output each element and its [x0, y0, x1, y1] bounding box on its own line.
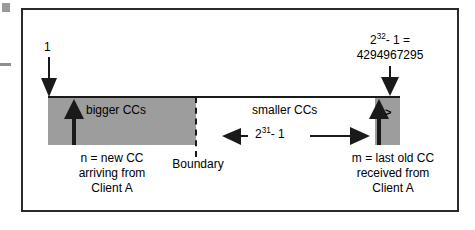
caption-old-cc: m = last old CC received from Client A [323, 151, 463, 196]
span-exponent: 31 [262, 126, 271, 135]
caption-new-cc-line2: arriving from [79, 166, 146, 180]
caption-old-cc-line2: received from [357, 166, 430, 180]
span-suffix: - 1 [271, 127, 285, 141]
scan-artifact-dash [0, 63, 11, 66]
boundary-divider [195, 97, 197, 157]
caption-old-cc-line3: Client A [372, 181, 413, 195]
number-line-axis [48, 96, 400, 98]
span-base: 2 [255, 127, 262, 141]
span-measure-label: 231- 1 [255, 128, 285, 141]
axis-max-label: 232- 1 = 4294967295 [330, 33, 450, 63]
axis-max-rest: - 1 = [386, 33, 410, 47]
caption-new-cc: n = new CC arriving from Client A [52, 151, 172, 196]
scan-artifact-square [2, 3, 10, 12]
axis-max-value: 4294967295 [357, 48, 424, 62]
zone-smaller-label: smaller CCs [252, 104, 317, 117]
figure-canvas: 1 232- 1 = 4294967295 bigger CCs smaller… [0, 0, 475, 230]
axis-min-label: 1 [44, 41, 51, 54]
caption-new-cc-line1: n = new CC [80, 151, 143, 165]
caption-new-cc-line3: Client A [91, 181, 132, 195]
zone-bigger-label: bigger CCs [86, 104, 146, 117]
wrap-marker-label: > [385, 106, 391, 119]
axis-max-base: 2 [370, 33, 377, 47]
axis-max-exponent: 32 [377, 32, 386, 41]
caption-old-cc-line1: m = last old CC [352, 151, 434, 165]
